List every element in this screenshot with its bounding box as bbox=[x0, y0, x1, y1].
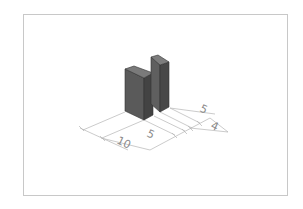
right-prism-block bbox=[151, 55, 169, 112]
dim-label-5-front: 5 bbox=[145, 127, 157, 142]
isometric-drawing: 10 5 5 4 bbox=[0, 0, 303, 209]
dim-label-5-back: 5 bbox=[198, 102, 210, 117]
dim-label-10: 10 bbox=[115, 134, 133, 152]
dim-label-4: 4 bbox=[209, 119, 221, 134]
left-prism-block bbox=[125, 66, 153, 120]
